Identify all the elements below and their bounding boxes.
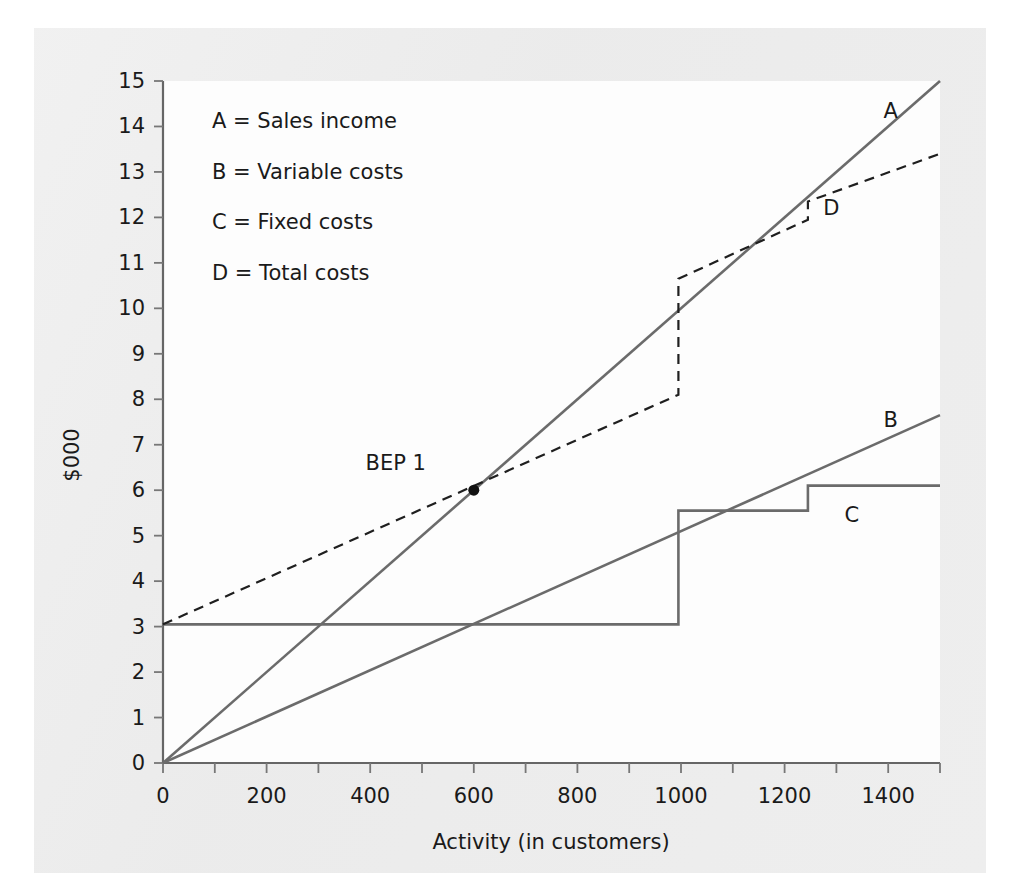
x-axis-title: Activity (in customers) [432,830,669,854]
series-line-c [163,486,940,625]
y-tick-label: 7 [132,433,145,457]
series-line-b [163,415,940,763]
x-tick-label: 600 [454,784,494,808]
y-axis-ticks [154,81,163,763]
y-tick-label: 15 [118,69,145,93]
series-label-b: B [884,408,898,432]
x-tick-label: 1200 [758,784,811,808]
y-tick-label: 13 [118,160,145,184]
bep-marker-dot [468,485,479,496]
y-tick-label: 6 [132,478,145,502]
x-tick-label: 200 [247,784,287,808]
x-tick-label: 1000 [654,784,707,808]
chart-page: 0123456789101112131415 02004006008001000… [0,0,1017,888]
y-tick-label: 5 [132,524,145,548]
x-tick-label: 0 [156,784,169,808]
x-axis-ticks [163,763,940,773]
chart-legend: A = Sales incomeB = Variable costsC = Fi… [212,109,404,285]
y-tick-label: 2 [132,660,145,684]
series-label-d: D [823,196,839,220]
y-tick-label: 10 [118,296,145,320]
y-tick-label: 1 [132,706,145,730]
y-tick-label: 8 [132,387,145,411]
y-tick-label: 4 [132,569,145,593]
series-label-a: A [884,99,899,123]
breakeven-chart: 0123456789101112131415 02004006008001000… [0,0,1017,888]
y-tick-label: 11 [118,251,145,275]
y-tick-label: 3 [132,615,145,639]
series-label-c: C [845,503,860,527]
legend-entry-1: B = Variable costs [212,160,404,184]
y-tick-label: 0 [132,751,145,775]
y-tick-label: 9 [132,342,145,366]
x-tick-label: 400 [350,784,390,808]
x-axis-tick-labels: 0200400600800100012001400 [156,784,915,808]
y-axis-tick-labels: 0123456789101112131415 [118,69,145,775]
y-tick-label: 14 [118,114,145,138]
y-axis-title: $000 [60,428,84,481]
chart-annotations: BEP 1 [366,451,480,496]
legend-entry-0: A = Sales income [212,109,397,133]
bep-annotation-label: BEP 1 [366,451,426,475]
y-tick-label: 12 [118,205,145,229]
legend-entry-2: C = Fixed costs [212,210,373,234]
x-tick-label: 1400 [861,784,914,808]
x-tick-label: 800 [557,784,597,808]
legend-entry-3: D = Total costs [212,261,369,285]
